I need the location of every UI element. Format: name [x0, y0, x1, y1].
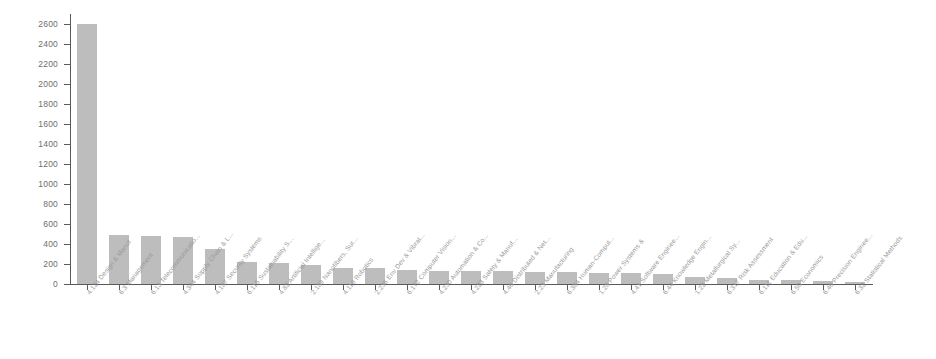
y-axis-tick-mark — [64, 184, 70, 185]
y-axis-tick-label: 2200 — [0, 60, 58, 69]
y-axis-tick-label: 600 — [0, 220, 58, 229]
y-axis-tick-label: 1800 — [0, 100, 58, 109]
y-axis-tick-mark — [64, 284, 70, 285]
y-axis-tick-label: 2600 — [0, 20, 58, 29]
y-axis-tick-mark — [64, 224, 70, 225]
bar-slot — [813, 14, 833, 284]
bar[interactable] — [77, 24, 97, 284]
y-axis-tick-mark — [64, 264, 70, 265]
bar-slot — [365, 14, 385, 284]
y-axis-tick-mark — [64, 84, 70, 85]
y-axis-tick-mark — [64, 144, 70, 145]
y-axis-tick-label: 800 — [0, 200, 58, 209]
y-axis-tick-mark — [64, 164, 70, 165]
y-axis-tick-label: 1200 — [0, 160, 58, 169]
y-axis-tick-label: 1400 — [0, 140, 58, 149]
y-axis-tick-label: 1000 — [0, 180, 58, 189]
y-axis-tick-label: 2400 — [0, 40, 58, 49]
y-axis-tick-mark — [64, 44, 70, 45]
y-axis-tick-mark — [64, 204, 70, 205]
bar-chart: 0200400600800100012001400160018002000220… — [0, 0, 936, 359]
y-axis-tick-label: 1600 — [0, 120, 58, 129]
bar-slot — [557, 14, 577, 284]
y-axis-tick-mark — [64, 244, 70, 245]
y-axis-tick-label: 0 — [0, 280, 58, 289]
y-axis-tick-label: 2000 — [0, 80, 58, 89]
y-axis-tick-mark — [64, 124, 70, 125]
y-axis-tick-mark — [64, 24, 70, 25]
bar-slot — [141, 14, 161, 284]
y-axis-tick-mark — [64, 64, 70, 65]
y-axis-tick-label: 200 — [0, 260, 58, 269]
bar-slot — [77, 14, 97, 284]
y-axis-tick-mark — [64, 104, 70, 105]
y-axis-tick-label: 400 — [0, 240, 58, 249]
